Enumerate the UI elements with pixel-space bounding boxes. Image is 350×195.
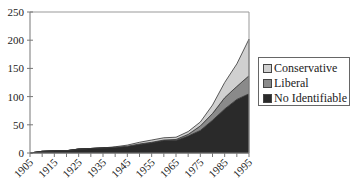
legend-item-conservative: Conservative — [263, 61, 349, 76]
y-tick-label: 50 — [13, 119, 25, 131]
y-tick-label: 200 — [8, 34, 25, 46]
x-tick-label: 1905 — [11, 156, 35, 180]
x-tick-label: 1955 — [133, 156, 157, 180]
swatch-no-identifiable — [263, 94, 272, 103]
legend-label: No Identifiable — [274, 91, 347, 106]
legend-item-liberal: Liberal — [263, 76, 349, 91]
x-tick-label: 1985 — [206, 156, 230, 180]
x-tick-label: 1995 — [230, 156, 254, 180]
y-tick-label: 100 — [8, 91, 25, 103]
x-tick-label: 1945 — [109, 156, 133, 180]
swatch-conservative — [263, 64, 272, 73]
x-tick-label: 1915 — [36, 156, 60, 180]
y-axis-ticks: 050100150200250 — [8, 6, 34, 159]
plot-areas — [30, 39, 249, 153]
legend-label: Liberal — [274, 76, 309, 91]
legend-item-no-identifiable: No Identifiable — [263, 91, 349, 106]
y-tick-label: 250 — [8, 6, 25, 18]
legend: Conservative Liberal No Identifiable — [258, 57, 350, 106]
x-tick-label: 1975 — [182, 156, 206, 180]
x-axis-ticks: 1905191519251935194519551965197519851995 — [11, 153, 254, 180]
legend-label: Conservative — [274, 61, 337, 76]
y-tick-label: 150 — [8, 62, 25, 74]
x-tick-label: 1935 — [84, 156, 108, 180]
x-tick-label: 1965 — [157, 156, 181, 180]
swatch-liberal — [263, 79, 272, 88]
y-tick-label: 0 — [19, 147, 25, 159]
x-tick-label: 1925 — [60, 156, 84, 180]
